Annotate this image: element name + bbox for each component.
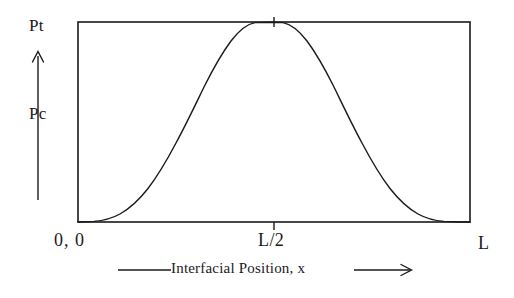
plot-frame xyxy=(78,22,470,222)
figure-canvas xyxy=(0,0,514,298)
x-axis-mid-label: L/2 xyxy=(258,231,284,249)
x-axis-caption: Interfacial Position, x xyxy=(171,261,305,276)
x-axis-origin-label: 0, 0 xyxy=(54,231,85,249)
pressure-profile-curve xyxy=(78,22,470,222)
x-axis-end-label: L xyxy=(478,234,489,252)
figure-container: Pt Pc 0, 0 L/2 L Interfacial Position, x xyxy=(0,0,514,298)
y-axis-top-label: Pt xyxy=(29,17,44,34)
y-axis-mid-label: Pc xyxy=(29,105,47,122)
